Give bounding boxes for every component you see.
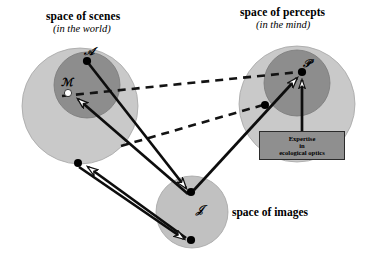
point-A-label: 𝒜 [84,45,94,58]
point-A [83,57,91,65]
point-M-label: ℳ [61,76,73,89]
point-P-label: 𝒫 [303,57,311,70]
point-image-upper [187,188,195,196]
point-M [64,89,71,96]
scenes-title: space of scenes [46,10,120,22]
percepts-title: space of percepts [240,6,325,18]
point-percept-mid [261,101,269,109]
images-title: space of images [232,206,308,218]
percepts-subtitle: (in the mind) [256,19,310,30]
expertise-line-2: in [299,142,305,149]
expertise-annotation-box: Expertise in ecological optics [259,131,345,160]
point-I-label: 𝒥 [196,203,204,216]
diagram-canvas: space of scenes (in the world) space of … [0,0,373,263]
point-scene-lower [74,159,82,167]
expertise-line-3: ecological optics [279,149,325,156]
point-image-lower [187,236,195,244]
scenes-subtitle: (in the world) [53,23,111,34]
expertise-line-1: Expertise [289,135,316,142]
percepts-inner-circle [264,50,330,116]
